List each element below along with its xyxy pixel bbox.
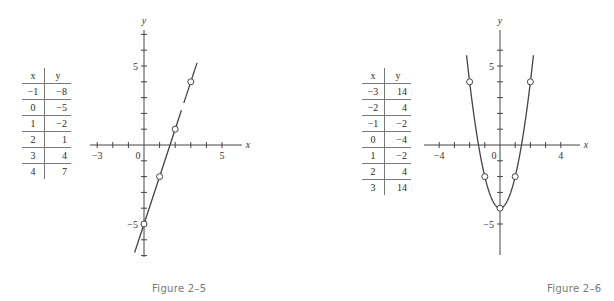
figure-caption: Figure 2–5: [152, 283, 206, 294]
y-axis-label: y: [497, 15, 503, 26]
x-tick-label: 5: [220, 150, 225, 161]
x-tick-label: −4: [434, 150, 445, 161]
y-tick-label: 5: [133, 61, 138, 72]
data-point: [497, 205, 503, 211]
x-axis-label: x: [583, 139, 589, 150]
data-point: [188, 79, 194, 85]
figure-2-6: xy−314−24−1−20−41−224314 xy−4045−5 Figur…: [307, 0, 614, 301]
x-tick-label: 4: [558, 150, 563, 161]
y-tick-label: −5: [483, 219, 494, 230]
data-point: [467, 79, 473, 85]
data-point: [527, 79, 533, 85]
figure-caption: Figure 2–6: [547, 283, 601, 294]
x-axis-label: x: [245, 139, 251, 150]
y-tick-label: 5: [489, 61, 494, 72]
y-tick-label: −5: [127, 219, 138, 230]
parabola-graph: xy−4045−5: [307, 0, 614, 301]
linear-graph: xy−3055−5: [0, 0, 307, 301]
x-tick-label: 0: [492, 150, 497, 161]
data-point: [172, 126, 178, 132]
x-tick-label: −3: [92, 150, 103, 161]
x-tick-label: 0: [136, 150, 141, 161]
data-point: [482, 174, 488, 180]
y-axis-label: y: [141, 15, 147, 26]
data-point: [512, 174, 518, 180]
figure-2-5: xy−1−80−51−2213447 xy−3055−5 Figure 2–5: [0, 0, 307, 301]
data-point: [141, 221, 147, 227]
data-point: [157, 174, 163, 180]
